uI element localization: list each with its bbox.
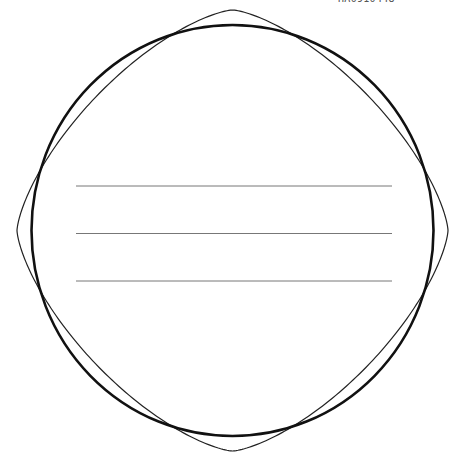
diagram-canvas <box>0 0 464 463</box>
rounded-diamond-shape <box>17 10 448 451</box>
circle-shape <box>32 25 434 436</box>
writing-lines <box>76 186 392 281</box>
